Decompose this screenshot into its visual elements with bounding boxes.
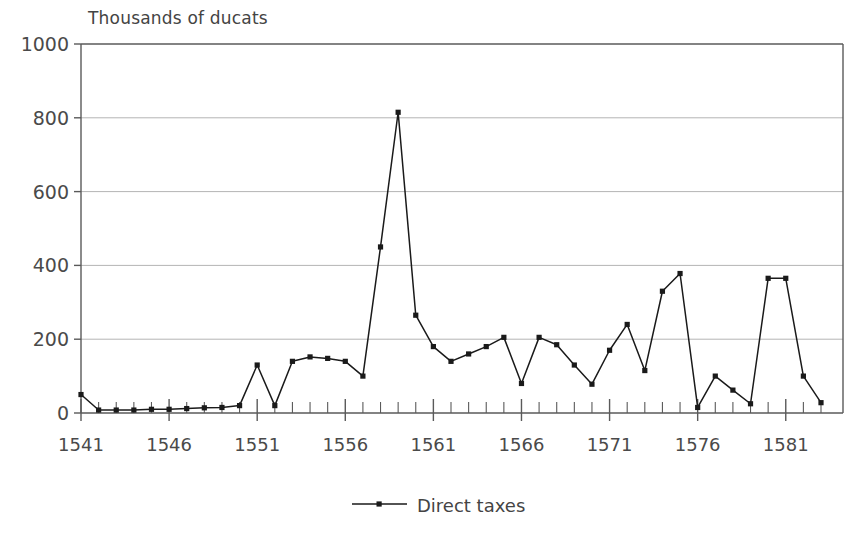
y-tick-label: 600 (33, 181, 69, 203)
x-axis-ticks (81, 399, 821, 421)
x-tick-label: 1566 (499, 434, 545, 455)
x-tick-label: 1576 (675, 434, 721, 455)
y-tick-label: 0 (57, 402, 69, 424)
plot-frame (81, 44, 843, 413)
x-tick-label: 1551 (234, 434, 280, 455)
legend-symbol (352, 501, 407, 506)
x-tick-label: 1541 (58, 434, 104, 455)
y-axis-ticks (74, 44, 81, 413)
series-direct-taxes-line (81, 112, 821, 410)
x-tick-label: 1546 (146, 434, 192, 455)
legend-item-label: Direct taxes (417, 495, 525, 516)
chart-container: Thousands of ducats 02004006008001000 15… (0, 0, 863, 538)
x-tick-label: 1556 (322, 434, 368, 455)
series-direct-taxes-markers (78, 110, 823, 413)
x-tick-label: 1581 (763, 434, 809, 455)
line-chart-plot (0, 0, 863, 538)
y-tick-label: 200 (33, 328, 69, 350)
y-axis-title: Thousands of ducats (88, 8, 268, 28)
gridlines-group (81, 118, 843, 339)
x-tick-label: 1561 (410, 434, 456, 455)
y-tick-label: 1000 (21, 33, 69, 55)
y-tick-label: 800 (33, 107, 69, 129)
x-tick-label: 1571 (587, 434, 633, 455)
y-tick-label: 400 (33, 254, 69, 276)
